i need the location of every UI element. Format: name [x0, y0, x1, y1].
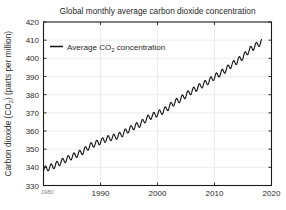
ytick-label: 350	[26, 145, 40, 154]
ytick-label: 360	[26, 127, 40, 136]
ytick-label: 330	[26, 182, 40, 191]
co2-line-chart: 3303403503603703803904004104201980199020…	[0, 0, 286, 210]
ytick-label: 340	[26, 163, 40, 172]
ytick-label: 410	[26, 36, 40, 45]
ytick-label: 400	[26, 54, 40, 63]
chart-legend: Average CO2 concentration	[50, 43, 165, 53]
y-axis-title: Carbon dioxide (CO2) (parts per million)	[3, 31, 14, 177]
xtick-label: 2010	[206, 189, 224, 198]
ytick-label: 420	[26, 18, 40, 27]
ytick-label: 390	[26, 73, 40, 82]
legend-label: Average CO2 concentration	[67, 43, 165, 53]
xtick-label: 2000	[149, 189, 167, 198]
xtick-label: 1990	[92, 189, 110, 198]
chart-title: Global monthly average carbon dioxide co…	[59, 6, 255, 16]
y-axis-title-post: ) (parts per million)	[3, 31, 13, 100]
xtick-label: 1980	[41, 189, 53, 195]
ytick-label: 370	[26, 109, 40, 118]
ytick-label: 380	[26, 91, 40, 100]
legend-label-pre: Average CO	[67, 43, 111, 52]
y-axis-title-pre: Carbon dioxide (CO	[3, 103, 13, 177]
legend-label-post: concentration	[115, 43, 166, 52]
chart-figure: 3303403503603703803904004104201980199020…	[0, 0, 286, 210]
xtick-label: 2020	[263, 189, 281, 198]
